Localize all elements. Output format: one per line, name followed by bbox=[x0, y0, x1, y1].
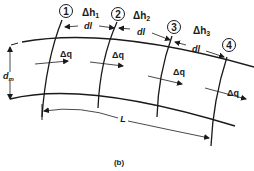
total-length-dimension: L bbox=[42, 104, 209, 138]
svg-text:Δq: Δq bbox=[60, 49, 72, 59]
head-loss-1: Δh1 bbox=[82, 7, 99, 19]
svg-text:Δq: Δq bbox=[227, 88, 239, 98]
flow-arrow-1: Δq bbox=[35, 49, 72, 64]
flow-arrow-3: Δq bbox=[148, 67, 185, 84]
svg-text:dl: dl bbox=[84, 21, 92, 31]
svg-text:4: 4 bbox=[226, 40, 232, 51]
flow-arrow-2: Δq bbox=[90, 50, 124, 66]
svg-text:L: L bbox=[120, 114, 126, 124]
section-line-3 bbox=[157, 36, 172, 117]
depth-dimension: dm bbox=[3, 47, 15, 99]
svg-text:dl: dl bbox=[137, 27, 145, 37]
svg-text:3: 3 bbox=[171, 22, 177, 33]
upper-boundary-dash bbox=[11, 43, 18, 45]
section-marker-4: 4 bbox=[223, 39, 236, 52]
svg-text:dl: dl bbox=[192, 44, 200, 54]
head-loss-2: Δh2 bbox=[133, 10, 150, 22]
head-loss-3: Δh3 bbox=[193, 25, 210, 37]
section-marker-1: 1 bbox=[60, 5, 73, 18]
figure-caption: (b) bbox=[114, 158, 125, 167]
svg-text:1: 1 bbox=[63, 6, 69, 17]
segment-length-dimension-1: dl bbox=[65, 21, 114, 31]
segment-length-dimension-2: dl bbox=[119, 27, 170, 40]
depth-label: dm bbox=[3, 71, 15, 82]
section-marker-2: 2 bbox=[112, 8, 125, 21]
flow-arrow-4: Δq bbox=[205, 88, 246, 99]
section-line-4 bbox=[211, 57, 227, 146]
section-line-1 bbox=[42, 20, 62, 117]
upper-boundary-curve bbox=[22, 38, 254, 67]
svg-text:Δq: Δq bbox=[112, 50, 124, 60]
svg-text:2: 2 bbox=[115, 9, 121, 20]
flow-channel-diagram: 1 2 3 4 Δh1 Δh2 Δh3 dl dl dl Δq Δq bbox=[0, 0, 254, 171]
svg-text:Δq: Δq bbox=[173, 67, 185, 77]
section-marker-3: 3 bbox=[168, 21, 181, 34]
